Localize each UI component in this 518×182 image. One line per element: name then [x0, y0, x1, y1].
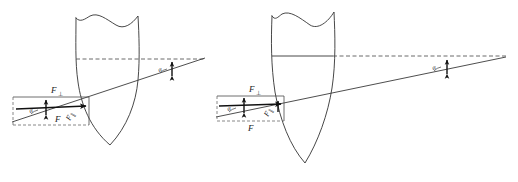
- label-f-parallel-left: F ∥: [63, 110, 77, 124]
- resultant-force-vector-left: [16, 106, 86, 109]
- label-f-perp-left-subscript: ⊥: [58, 91, 63, 97]
- inclined-force-ray-right: [216, 57, 506, 117]
- label-angle-lower-left: α: [28, 106, 34, 114]
- label-f-main-right: F: [247, 123, 254, 133]
- label-angle-upper-right: α: [431, 63, 437, 71]
- label-f-perp-left: F ⊥: [50, 85, 63, 97]
- label-f-perp-right-subscript: ⊥: [256, 90, 261, 96]
- label-f-perp-right: F ⊥: [248, 84, 261, 96]
- diagram-canvas: F ⊥ F F ∥ α α: [0, 0, 518, 182]
- inclined-force-ray-left: [12, 58, 205, 122]
- label-f-perp-right-text: F: [248, 84, 255, 94]
- figure-root: F ⊥ F F ∥ α α: [0, 0, 518, 182]
- right-diagram: F ⊥ F F ∥ α α: [216, 12, 506, 163]
- label-angle-upper-left: α: [157, 65, 163, 73]
- left-diagram: F ⊥ F F ∥ α α: [12, 15, 205, 145]
- shield-outline-left: [76, 15, 139, 145]
- label-f-parallel-right: F ∥: [261, 106, 275, 120]
- shield-outline-right: [271, 12, 334, 163]
- label-f-main-left: F: [54, 114, 61, 124]
- label-f-perp-left-text: F: [50, 85, 57, 95]
